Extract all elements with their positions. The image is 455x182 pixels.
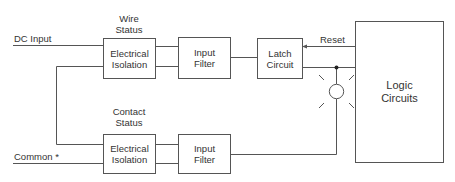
block-label-line1: Input (194, 47, 215, 58)
wire-status-label: Wire Status (104, 13, 154, 35)
contact-status-label: Contact Status (104, 106, 154, 128)
bottom-input-filter-block: Input Filter (178, 134, 231, 174)
led-indicator-icon (329, 84, 343, 98)
wire-status-line2: Status (104, 24, 154, 35)
block-label-line2: Filter (194, 154, 215, 165)
dc-input-label: DC Input (14, 33, 52, 44)
block-label-line1: Electrical (110, 48, 149, 59)
block-label-line2: Isolation (110, 59, 149, 70)
junction-dot-icon (335, 66, 339, 70)
block-label-line1: Latch (267, 48, 294, 59)
block-label-line2: Filter (194, 58, 215, 69)
contact-status-line1: Contact (104, 106, 154, 117)
block-label-line1: Input (194, 143, 215, 154)
block-label-line1: Electrical (110, 143, 149, 154)
block-label-line2: Isolation (110, 154, 149, 165)
top-electrical-isolation-block: Electrical Isolation (103, 38, 156, 79)
block-label-line1: Logic (381, 79, 418, 92)
wire-status-line1: Wire (104, 13, 154, 24)
latch-circuit-block: Latch Circuit (257, 38, 303, 79)
top-input-filter-block: Input Filter (178, 37, 231, 79)
bottom-electrical-isolation-block: Electrical Isolation (103, 134, 156, 174)
reset-label: Reset (320, 34, 345, 45)
common-label: Common * (14, 151, 59, 162)
block-label-line2: Circuits (381, 92, 418, 105)
contact-status-line2: Status (104, 117, 154, 128)
block-label-line2: Circuit (267, 59, 294, 70)
logic-circuits-block: Logic Circuits (355, 21, 444, 163)
